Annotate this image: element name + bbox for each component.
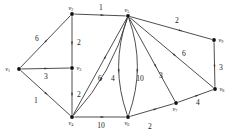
edge-arrowhead xyxy=(71,41,73,45)
edges-layer xyxy=(21,14,215,117)
edge-weight-label: 2 xyxy=(77,90,81,99)
node-label: v3 xyxy=(77,64,82,73)
edge-weight-label: 6 xyxy=(182,49,186,58)
edge-arrowhead xyxy=(136,69,138,73)
edge-arrowhead xyxy=(214,65,216,69)
graph-node-v1: v1 xyxy=(5,65,21,74)
node-label-subscript: 8 xyxy=(222,88,224,93)
edge-arrowhead xyxy=(44,68,48,70)
node-label-subscript: 2 xyxy=(71,7,73,12)
edge-weight-label: 6 xyxy=(98,74,102,83)
node-label: v4 xyxy=(69,119,74,128)
edge-weight-label: 3 xyxy=(219,63,223,72)
graph-node-v4: v4 xyxy=(69,115,74,127)
graph-canvas: 631122610410362243 v1v2v3v4v5v6v7v8v9 xyxy=(0,0,242,140)
node-dot xyxy=(70,66,74,70)
edge-weight-label: 2 xyxy=(77,38,81,47)
node-label-subscript: 9 xyxy=(221,39,223,44)
edge-weight-label: 3 xyxy=(159,71,163,80)
graph-edge xyxy=(119,18,128,115)
arrowheads-layer xyxy=(44,14,215,118)
edge-weight-label: 2 xyxy=(175,16,179,25)
edge-weight-label: 4 xyxy=(111,74,115,83)
node-dot xyxy=(17,67,21,71)
node-dot xyxy=(70,12,74,16)
node-label: v1 xyxy=(5,65,10,74)
graph-edge xyxy=(74,14,125,16)
node-label: v2 xyxy=(69,4,74,13)
node-label: v6 xyxy=(125,119,130,128)
node-label-subscript: 6 xyxy=(127,122,129,127)
node-label-subscript: 5 xyxy=(127,9,129,14)
graph-node-v2: v2 xyxy=(69,4,74,16)
edge-weight-label: 6 xyxy=(35,34,39,43)
graph-edge xyxy=(129,18,138,115)
node-dot xyxy=(126,14,130,18)
edge-weight-label: 3 xyxy=(44,72,48,81)
node-label: v7 xyxy=(173,105,178,114)
edge-weight-label: 2 xyxy=(148,122,152,131)
edge-weight-label: 4 xyxy=(196,98,200,107)
graph-edge xyxy=(130,104,174,117)
node-label-subscript: 4 xyxy=(71,122,73,127)
node-label: v5 xyxy=(125,6,130,15)
node-label-subscript: 1 xyxy=(8,68,10,73)
graph-figure: 631122610410362243 v1v2v3v4v5v6v7v8v9 xyxy=(0,0,242,140)
graph-edge xyxy=(74,18,128,115)
edge-arrowhead xyxy=(101,116,105,118)
edge-weight-labels-layer: 631122610410362243 xyxy=(34,3,223,131)
edge-arrowhead xyxy=(153,108,157,110)
node-label-subscript: 7 xyxy=(175,108,177,113)
edge-arrowhead xyxy=(195,95,199,97)
graph-edge xyxy=(214,42,215,86)
edge-weight-label: 1 xyxy=(34,96,38,105)
graph-node-v7: v7 xyxy=(173,101,178,113)
nodes-layer: v1v2v3v4v5v6v7v8v9 xyxy=(5,4,224,128)
edge-weight-label: 10 xyxy=(97,121,105,130)
edge-arrowhead xyxy=(179,29,183,31)
edge-arrowhead xyxy=(101,14,105,16)
edge-arrowhead xyxy=(71,93,73,97)
node-label: v8 xyxy=(220,85,225,94)
node-label: v9 xyxy=(219,36,224,45)
node-dot xyxy=(213,87,217,91)
node-dot xyxy=(212,38,216,42)
edge-weight-label: 1 xyxy=(99,3,103,12)
edge-weight-label: 10 xyxy=(136,74,144,83)
node-label-subscript: 3 xyxy=(79,67,81,72)
edge-arrowhead xyxy=(118,69,120,73)
